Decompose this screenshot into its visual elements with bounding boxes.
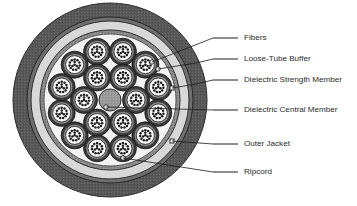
fiber xyxy=(92,125,95,128)
fiber xyxy=(96,45,99,48)
fiber xyxy=(79,102,82,105)
fiber xyxy=(99,46,102,49)
fiber xyxy=(78,61,81,64)
fiber xyxy=(122,50,125,53)
fiber xyxy=(100,150,103,153)
fiber xyxy=(63,81,66,84)
fiber xyxy=(86,94,89,97)
fiber xyxy=(162,84,165,87)
fiber xyxy=(123,81,126,84)
fiber xyxy=(118,150,121,153)
fiber xyxy=(161,89,164,92)
fiber xyxy=(79,64,82,67)
fiber xyxy=(60,81,63,84)
fiber xyxy=(96,76,99,79)
fiber xyxy=(78,99,81,102)
fiber xyxy=(60,86,63,89)
fiber xyxy=(138,94,141,97)
fiber xyxy=(148,138,151,141)
fiber xyxy=(120,123,123,126)
fiber xyxy=(72,68,75,71)
fiber xyxy=(79,135,82,138)
fiber xyxy=(126,74,129,77)
fiber xyxy=(96,48,99,51)
fiber xyxy=(85,100,88,103)
fiber xyxy=(76,65,79,68)
fiber xyxy=(56,84,59,87)
callout-label-dielectric-central-member: Dielectric Central Member xyxy=(244,105,338,114)
fiber-cable-figure: FibersLoose-Tube BufferDielectric Streng… xyxy=(0,0,357,206)
fiber xyxy=(66,112,69,115)
fiber xyxy=(144,61,147,64)
fiber xyxy=(101,51,104,54)
fiber xyxy=(127,51,130,54)
fiber xyxy=(96,145,99,148)
fiber xyxy=(93,143,96,146)
fiber xyxy=(60,83,63,86)
fiber xyxy=(71,65,74,68)
fiber xyxy=(59,91,62,94)
fiber xyxy=(117,145,120,148)
fiber xyxy=(83,99,86,102)
fiber xyxy=(87,102,90,105)
fiber xyxy=(63,87,66,90)
fiber xyxy=(91,77,94,80)
fiber xyxy=(65,84,68,87)
fiber xyxy=(161,115,164,118)
fiber xyxy=(62,91,64,94)
fiber xyxy=(93,46,96,49)
fiber xyxy=(97,152,100,155)
fiber xyxy=(125,143,128,146)
loose-tube-buffer xyxy=(110,109,137,136)
fiber xyxy=(100,74,103,77)
fiber xyxy=(94,123,97,126)
fiber xyxy=(100,119,103,122)
callout-label-loose-tube-buffer: Loose-Tube Buffer xyxy=(244,54,311,63)
fiber xyxy=(81,100,84,103)
fiber xyxy=(101,122,104,125)
fiber xyxy=(123,55,126,58)
fiber xyxy=(101,77,104,80)
fiber xyxy=(130,97,133,100)
fiber xyxy=(126,48,129,51)
fiber xyxy=(157,83,160,86)
fiber xyxy=(144,132,147,135)
fiber xyxy=(141,59,144,62)
fiber xyxy=(75,139,78,142)
fiber xyxy=(126,54,128,57)
fiber xyxy=(139,64,142,67)
fiber xyxy=(97,81,100,84)
fiber xyxy=(60,109,63,112)
fiber xyxy=(76,130,79,133)
fiber xyxy=(156,91,159,94)
fiber xyxy=(126,119,129,122)
fiber xyxy=(101,48,104,51)
fiber xyxy=(93,117,96,120)
fiber xyxy=(120,77,123,80)
fiber xyxy=(69,138,72,141)
fiber xyxy=(117,51,120,54)
fiber xyxy=(92,54,95,57)
fiber xyxy=(71,59,74,62)
fiber xyxy=(127,148,130,151)
fiber xyxy=(143,139,146,142)
fiber xyxy=(135,99,138,102)
fiber xyxy=(118,125,121,128)
fiber xyxy=(71,135,74,138)
fiber xyxy=(146,68,149,71)
fiber xyxy=(118,80,121,83)
callout-label-outer-jacket: Outer Jacket xyxy=(244,139,291,148)
fiber xyxy=(120,126,123,128)
fiber xyxy=(77,138,80,141)
fiber xyxy=(135,94,138,97)
fiber xyxy=(98,52,101,55)
fiber xyxy=(125,72,128,75)
fiber xyxy=(149,135,152,138)
fiber xyxy=(159,87,162,90)
fiber xyxy=(137,100,140,103)
fiber xyxy=(64,89,67,92)
fiber xyxy=(156,117,159,120)
fiber xyxy=(154,81,157,84)
fiber xyxy=(88,99,91,102)
fiber xyxy=(92,80,95,83)
